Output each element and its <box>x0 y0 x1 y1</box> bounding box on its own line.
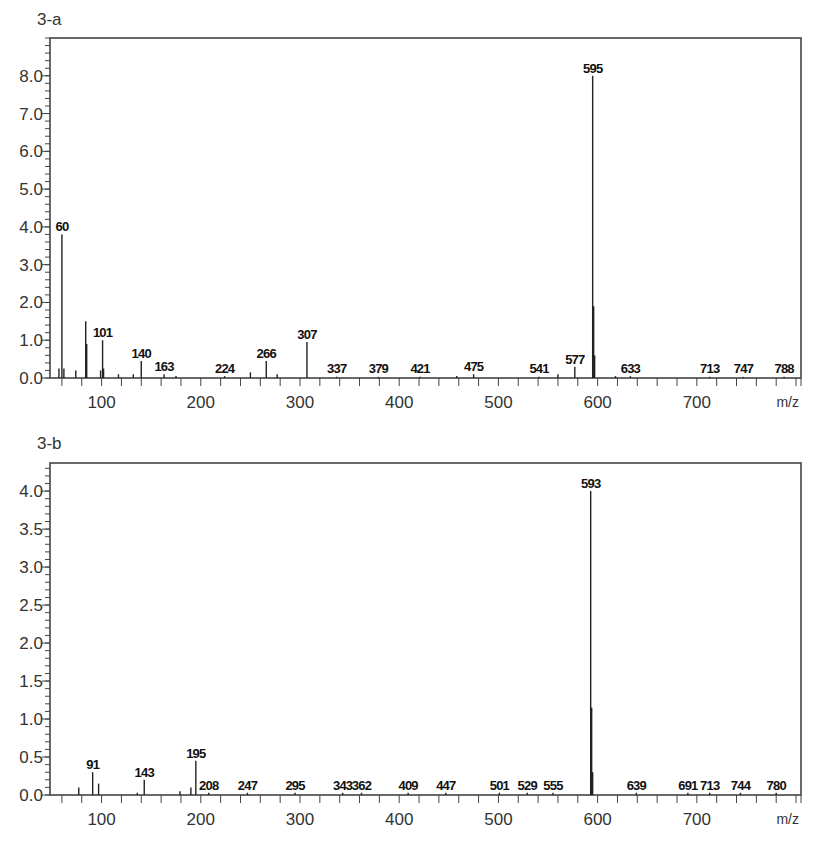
peak-label: 447 <box>436 778 456 793</box>
y-tick-label: 3.0 <box>19 558 43 577</box>
y-tick-label: 4.0 <box>19 482 43 501</box>
x-tick-label: 700 <box>683 810 711 829</box>
peak-label: 208 <box>199 778 219 793</box>
x-axis-unit-label: m/z <box>776 811 799 827</box>
x-tick-label: 200 <box>187 810 215 829</box>
peak-label: 295 <box>285 778 305 793</box>
peak-label: 555 <box>543 778 563 793</box>
y-tick-label: 0.5 <box>19 748 43 767</box>
x-tick-label: 300 <box>286 810 314 829</box>
peak-label: 529 <box>518 778 538 793</box>
peak-label: 593 <box>581 476 601 491</box>
peak-label: 362 <box>352 778 372 793</box>
y-tick-label: 3.5 <box>19 520 43 539</box>
y-tick-label: 2.5 <box>19 596 43 615</box>
peak-label: 195 <box>186 746 206 761</box>
x-axis: 100200300400500600700m/z <box>62 795 801 829</box>
peak-label: 780 <box>767 778 787 793</box>
peak-label: 91 <box>86 757 99 772</box>
peak-label: 713 <box>700 778 720 793</box>
x-tick-label: 100 <box>87 810 115 829</box>
x-tick-label: 600 <box>583 810 611 829</box>
y-tick-label: 1.5 <box>19 672 43 691</box>
y-tick-label: 0.0 <box>19 786 43 805</box>
peak-label: 409 <box>398 778 418 793</box>
y-axis: 0.00.51.01.52.02.53.03.54.0 <box>19 468 50 805</box>
x-tick-label: 500 <box>484 810 512 829</box>
mass-spectrum-chart-3b: 0.00.51.01.52.02.53.03.54.01002003004005… <box>0 0 813 846</box>
spectrum-panel-3b: 3-b 0.00.51.01.52.02.53.03.54.0100200300… <box>0 0 813 846</box>
peak-label: 744 <box>731 778 752 793</box>
peak-label: 691 <box>678 778 698 793</box>
plot-frame <box>50 463 801 795</box>
peak-label: 343 <box>333 778 353 793</box>
peak-label: 501 <box>490 778 510 793</box>
y-tick-label: 1.0 <box>19 710 43 729</box>
peak-label: 143 <box>135 765 155 780</box>
peak-label: 247 <box>238 778 258 793</box>
y-tick-label: 2.0 <box>19 634 43 653</box>
peaks: 9114319520824729534336240944750152955559… <box>79 476 787 795</box>
peak-label: 639 <box>627 778 647 793</box>
x-tick-label: 400 <box>385 810 413 829</box>
